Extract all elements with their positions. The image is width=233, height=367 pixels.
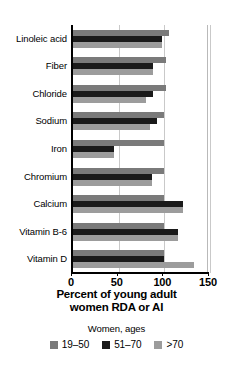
legend-item[interactable]: 19–50 (50, 339, 89, 350)
legend-swatch-icon (50, 341, 58, 349)
bar (73, 124, 150, 130)
plot-wrapper: 050100150 Linoleic acidFiberChlorideSodi… (0, 0, 233, 285)
plot-area (71, 25, 208, 273)
category-label: Vitamin B-6 (19, 226, 67, 237)
x-axis-title-line-1: Percent of young adult (0, 288, 233, 301)
legend-items: 19–5051–70>70 (0, 339, 233, 350)
bar-group (73, 223, 207, 241)
category-label: Calcium (33, 198, 67, 209)
category-label: Linoleic acid (16, 33, 67, 44)
x-tick-label: 150 (199, 276, 217, 288)
bar (73, 235, 178, 241)
bar-group (73, 195, 207, 213)
gridline (210, 25, 211, 273)
category-label: Sodium (35, 115, 67, 126)
bar-group (73, 168, 207, 186)
legend-label: 51–70 (114, 339, 141, 350)
bar-group (73, 250, 207, 268)
legend-swatch-icon (154, 341, 162, 349)
legend-title: Women, ages (0, 323, 233, 334)
bar-group (73, 140, 207, 158)
legend-item[interactable]: 51–70 (102, 339, 141, 350)
category-label: Iron (51, 143, 67, 154)
legend-swatch-icon (102, 341, 110, 349)
x-tick-label: 0 (68, 276, 74, 288)
bar (73, 207, 183, 213)
category-label: Vitamin D (27, 253, 67, 264)
x-tick-label: 50 (111, 276, 123, 288)
legend-label: 19–50 (62, 339, 89, 350)
bar-group (73, 112, 207, 130)
bar (73, 262, 194, 268)
x-axis-title: Percent of young adult women RDA or AI (0, 288, 233, 314)
legend: Women, ages 19–5051–70>70 (0, 323, 233, 350)
bar (73, 152, 114, 158)
category-label: Chloride (32, 88, 67, 99)
legend-label: >70 (166, 339, 183, 350)
x-axis-title-line-2: women RDA or AI (0, 301, 233, 314)
bar-group (73, 85, 207, 103)
bar (73, 69, 153, 75)
x-axis-line (71, 272, 209, 274)
bar (73, 180, 152, 186)
x-tick-label: 100 (153, 276, 171, 288)
bar-group (73, 57, 207, 75)
bar-chart: 050100150 Linoleic acidFiberChlorideSodi… (0, 0, 233, 367)
category-label: Chromium (24, 171, 67, 182)
legend-item[interactable]: >70 (154, 339, 183, 350)
bar (73, 42, 162, 48)
bar (73, 97, 146, 103)
category-label: Fiber (46, 60, 67, 71)
bar-group (73, 30, 207, 48)
